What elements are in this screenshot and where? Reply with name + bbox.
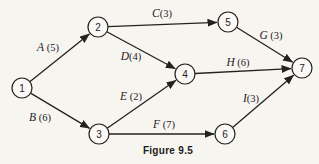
node-4-label: 4: [182, 69, 188, 80]
edge-B: [31, 93, 90, 128]
edge-label-D: D(4): [120, 50, 142, 63]
edge-label-G: G (3): [259, 29, 283, 42]
node-1-label: 1: [19, 83, 25, 94]
edge-C: [108, 22, 217, 26]
node-6-label: 6: [222, 129, 228, 140]
node-5-label: 5: [225, 17, 231, 28]
edge-label-F: F (7): [152, 118, 175, 131]
edge-label-C: C(3): [152, 7, 172, 20]
edge-label-B: B (6): [29, 111, 51, 124]
node-7-label: 7: [299, 63, 305, 74]
node-3-label: 3: [96, 129, 102, 140]
figure-9-5: A (5)B (6)C(3)D(4)E (2)F (7)G (3)H (6)I(…: [0, 0, 319, 164]
edge-label-E: E (2): [119, 90, 142, 103]
node-2-label: 2: [95, 22, 101, 33]
edge-H: [195, 69, 291, 74]
figure-caption: Figure 9.5: [118, 145, 218, 156]
edge-label-I: I(3): [242, 92, 260, 105]
network-diagram: A (5)B (6)C(3)D(4)E (2)F (7)G (3)H (6)I(…: [0, 0, 319, 164]
edge-label-A: A (5): [36, 41, 59, 54]
edge-label-H: H (6): [225, 56, 250, 69]
edge-I: [233, 75, 294, 127]
edges-layer: A (5)B (6)C(3)D(4)E (2)F (7)G (3)H (6)I(…: [29, 7, 294, 134]
